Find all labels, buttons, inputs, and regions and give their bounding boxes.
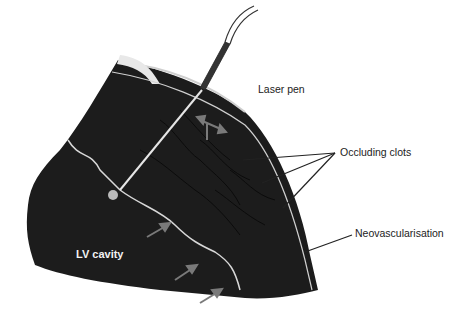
diagram-canvas: Laser pen Occluding clots Neovascularisa… [0, 0, 458, 333]
label-laser-pen: Laser pen [258, 83, 305, 95]
myocardium-shape [27, 60, 318, 298]
label-lv-cavity: LV cavity [76, 248, 124, 260]
heart-wall-illustration [0, 0, 458, 333]
label-neovascularisation: Neovascularisation [355, 227, 444, 239]
label-occluding-clots: Occluding clots [340, 146, 411, 158]
